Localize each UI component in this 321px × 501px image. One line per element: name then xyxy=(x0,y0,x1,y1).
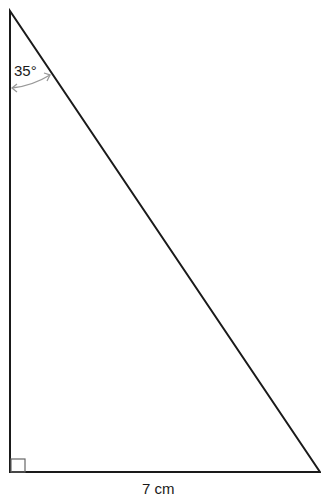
triangle-diagram xyxy=(0,0,321,501)
angle-label: 35° xyxy=(14,63,37,78)
right-angle-marker xyxy=(11,459,25,472)
triangle xyxy=(10,11,320,472)
base-length-label: 7 cm xyxy=(142,481,175,496)
